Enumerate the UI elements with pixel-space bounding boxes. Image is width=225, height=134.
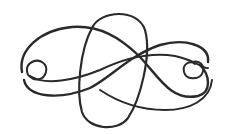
flourish-swirl-icon bbox=[0, 0, 225, 134]
flourish-ornament bbox=[0, 0, 225, 134]
